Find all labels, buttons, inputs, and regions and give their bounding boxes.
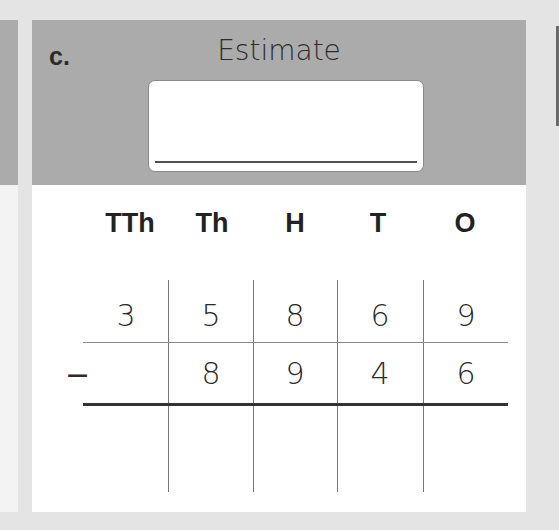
minuend-digit-o: 9 [424, 298, 508, 333]
estimate-input-box[interactable] [148, 80, 424, 172]
answer-cell-o[interactable] [424, 430, 508, 480]
answer-cell-th[interactable] [169, 430, 253, 480]
subtraction-problem-card: c. Estimate TTh Th H T O 3 5 8 6 9 − 8 9… [32, 20, 526, 512]
estimate-title: Estimate [32, 34, 526, 67]
minuend-digit-t: 6 [338, 298, 422, 333]
minuend-digit-tth: 3 [84, 298, 168, 333]
header-hundreds: H [250, 208, 340, 239]
adjacent-problem-header-strip [0, 20, 18, 185]
subtrahend-digit-t: 4 [338, 356, 422, 391]
subtrahend-digit-o: 6 [424, 356, 508, 391]
subtrahend-digit-h: 9 [253, 356, 337, 391]
row-separator [83, 342, 508, 343]
estimate-answer-line [155, 161, 417, 163]
minuend-digit-h: 8 [253, 298, 337, 333]
header-thousands: Th [167, 208, 257, 239]
header-ones: O [420, 208, 510, 239]
problem-header: c. Estimate [32, 20, 526, 185]
minuend-digit-th: 5 [169, 298, 253, 333]
answer-line [83, 403, 508, 406]
subtrahend-digit-th: 8 [169, 356, 253, 391]
adjacent-problem-body-strip [0, 185, 18, 512]
minus-sign: − [65, 357, 90, 392]
answer-cell-tth[interactable] [84, 430, 168, 480]
answer-cell-t[interactable] [338, 430, 422, 480]
header-tens: T [333, 208, 423, 239]
header-ten-thousands: TTh [85, 208, 175, 239]
answer-cell-h[interactable] [253, 430, 337, 480]
